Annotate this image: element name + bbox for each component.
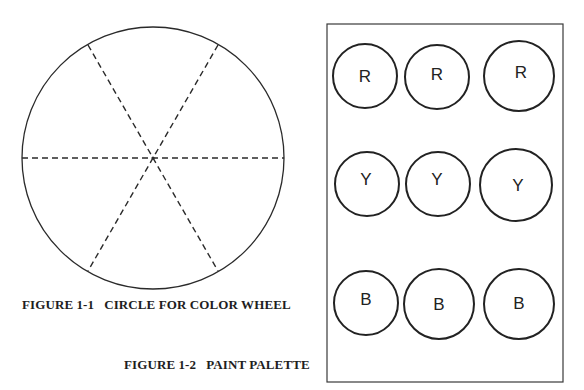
palette-row-red: R R R bbox=[333, 41, 554, 111]
color-wheel-figure bbox=[22, 27, 284, 289]
wheel-center-point bbox=[151, 156, 154, 159]
palette-row-yellow: Y Y Y bbox=[335, 149, 552, 221]
worksheet-figures: R R R Y Y Y B B B bbox=[0, 0, 584, 390]
paint-palette-figure: R R R Y Y Y B B B bbox=[327, 24, 563, 382]
palette-row-blue: B B B bbox=[334, 269, 554, 339]
well-label-red-2: R bbox=[431, 65, 443, 84]
figure-1-1-caption: FIGURE 1-1 CIRCLE FOR COLOR WHEEL bbox=[22, 297, 291, 313]
well-label-blue-2: B bbox=[433, 295, 444, 314]
well-label-blue-1: B bbox=[360, 290, 371, 309]
well-label-yellow-3: Y bbox=[512, 176, 523, 195]
well-label-blue-3: B bbox=[513, 294, 524, 313]
well-label-yellow-2: Y bbox=[431, 170, 442, 189]
well-label-red-3: R bbox=[515, 63, 527, 82]
well-label-yellow-1: Y bbox=[360, 170, 371, 189]
well-label-red-1: R bbox=[359, 67, 371, 86]
figure-1-2-caption: FIGURE 1-2 PAINT PALETTE bbox=[124, 357, 310, 373]
